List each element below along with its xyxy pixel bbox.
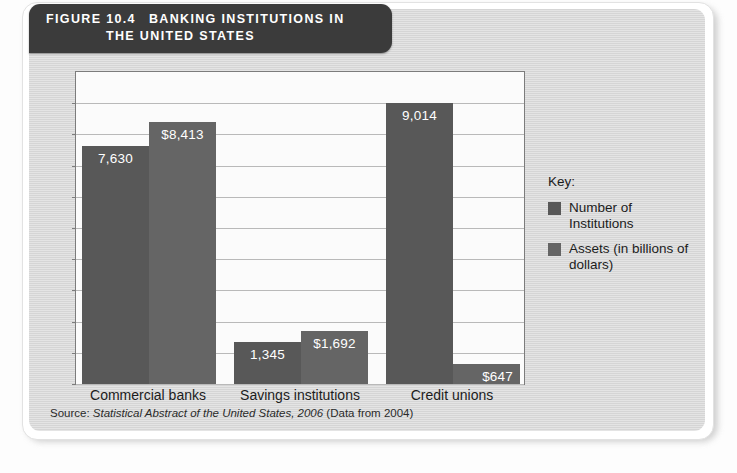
bar-value-label: 1,345: [234, 347, 301, 362]
figure-number: FIGURE 10.4: [46, 12, 136, 26]
y-axis-tick: [72, 384, 76, 385]
legend-item: Number of Institutions: [548, 200, 698, 232]
figure-page: 7,630$8,4131,345$1,6929,014$647 Commerci…: [0, 0, 737, 473]
bar: $1,692: [301, 331, 368, 384]
bar: $647: [453, 364, 520, 384]
bar-value-label: 7,630: [82, 151, 149, 166]
source-suffix: (Data from 2004): [323, 407, 413, 419]
chart-legend: Key: Number of Institutions Assets (in b…: [548, 174, 698, 282]
bar: 7,630: [82, 146, 149, 384]
bar-value-label: 9,014: [386, 108, 453, 123]
x-axis-labels: Commercial banksSavings institutionsCred…: [75, 387, 525, 407]
figure-header-text: FIGURE 10.4BANKING INSTITUTIONS IN THE U…: [46, 11, 386, 44]
x-axis-label: Credit unions: [363, 387, 541, 403]
bar-value-label: $1,692: [301, 336, 368, 351]
bar-value-label: $8,413: [149, 127, 216, 142]
source-prefix: Source:: [50, 407, 93, 419]
bar: 1,345: [234, 342, 301, 384]
bars-layer: 7,630$8,4131,345$1,6929,014$647: [76, 72, 524, 384]
figure-header-tab: FIGURE 10.4BANKING INSTITUTIONS IN THE U…: [29, 4, 392, 53]
figure-header-line-1: FIGURE 10.4BANKING INSTITUTIONS IN: [46, 11, 386, 28]
figure-title-line-1: BANKING INSTITUTIONS IN: [149, 12, 345, 26]
gridline: [76, 384, 524, 385]
chart-plot-area: 7,630$8,4131,345$1,6929,014$647: [75, 71, 525, 385]
figure-title-line-2: THE UNITED STATES: [46, 28, 386, 45]
legend-title: Key:: [548, 174, 698, 189]
figure-source: Source: Statistical Abstract of the Unit…: [50, 407, 413, 419]
legend-swatch-icon: [548, 202, 561, 215]
bar-value-label: $647: [453, 369, 520, 384]
bar: 9,014: [386, 103, 453, 384]
legend-item-label: Assets (in billions of dollars): [569, 241, 698, 273]
legend-item: Assets (in billions of dollars): [548, 241, 698, 273]
legend-swatch-icon: [548, 243, 561, 256]
source-title: Statistical Abstract of the United State…: [93, 407, 323, 419]
figure-card: 7,630$8,4131,345$1,6929,014$647 Commerci…: [29, 9, 705, 431]
bar: $8,413: [149, 122, 216, 384]
legend-item-label: Number of Institutions: [569, 200, 698, 232]
